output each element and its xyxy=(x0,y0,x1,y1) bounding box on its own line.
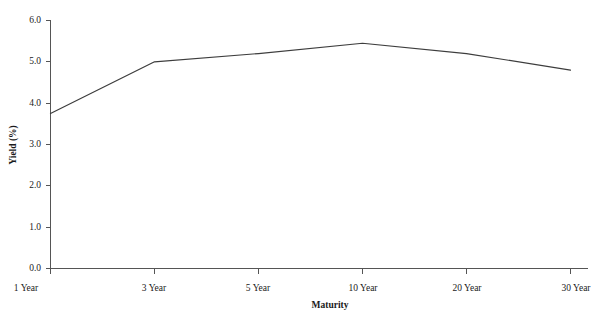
x-axis-ticks xyxy=(51,269,571,274)
x-tick-label-5-year: 5 Year xyxy=(246,283,271,293)
y-tick-label-0: 0.0 xyxy=(29,263,41,273)
y-tick-label-5: 5.0 xyxy=(29,56,41,66)
x-tick-label-10-year: 10 Year xyxy=(348,283,378,293)
y-axis-ticks xyxy=(46,21,51,269)
y-axis-title: Yield (%) xyxy=(8,125,19,165)
y-tick-label-3: 3.0 xyxy=(29,139,41,149)
chart-plot-area: 6.0 5.0 4.0 3.0 2.0 1.0 0.0 1 Year 3 Yea… xyxy=(0,0,603,317)
x-axis-title: Maturity xyxy=(312,300,349,310)
x-tick-label-1-year: 1 Year xyxy=(14,283,39,293)
y-tick-label-6: 6.0 xyxy=(29,15,41,25)
y-axis-tick-labels: 6.0 5.0 4.0 3.0 2.0 1.0 0.0 xyxy=(29,15,41,273)
y-tick-label-4: 4.0 xyxy=(29,98,41,108)
x-tick-label-3-year: 3 Year xyxy=(142,283,167,293)
y-tick-label-1: 1.0 xyxy=(29,222,41,232)
x-axis-tick-labels: 1 Year 3 Year 5 Year 10 Year 20 Year 30 … xyxy=(14,283,591,293)
x-tick-label-30-year: 30 Year xyxy=(561,283,591,293)
yield-curve-chart: 6.0 5.0 4.0 3.0 2.0 1.0 0.0 1 Year 3 Yea… xyxy=(0,0,603,317)
yield-series-line xyxy=(51,43,571,113)
x-tick-label-20-year: 20 Year xyxy=(452,283,482,293)
y-tick-label-2: 2.0 xyxy=(29,180,41,190)
